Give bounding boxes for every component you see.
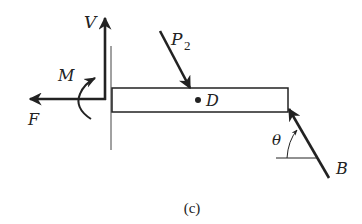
label-b: B <box>335 159 348 178</box>
b-force-arrow <box>289 109 329 178</box>
label-d: D <box>205 91 219 110</box>
label-m: M <box>57 66 75 85</box>
figure-caption: (c) <box>184 200 201 217</box>
label-p-subscript: 2 <box>184 38 191 53</box>
label-f: F <box>27 110 40 129</box>
label-p: P <box>170 29 183 49</box>
theta-angle-arc <box>287 130 297 158</box>
free-body-diagram: V M F P 2 D θ B (c) <box>0 0 362 224</box>
point-d <box>195 97 201 103</box>
label-v: V <box>84 12 98 32</box>
label-p-main: P <box>170 29 183 49</box>
label-theta: θ <box>272 131 281 149</box>
